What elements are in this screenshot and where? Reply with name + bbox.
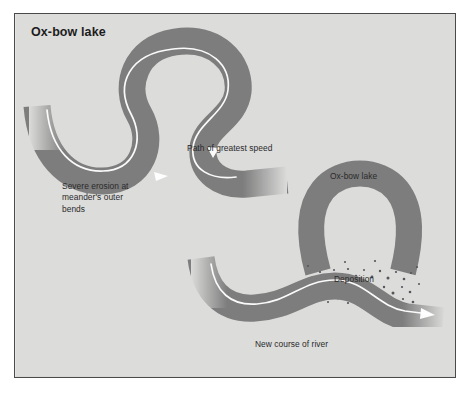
oxbow-lake-horseshoe bbox=[311, 174, 409, 273]
label-new-course-of-river: New course of river bbox=[255, 339, 328, 350]
label-deposition: Deposition bbox=[334, 274, 374, 285]
label-severe-erosion: Severe erosion at meander's outer bends bbox=[62, 181, 129, 215]
diagram-panel: Ox-bow lake Severe erosion at meander's … bbox=[14, 13, 456, 378]
page-title: Ox-bow lake bbox=[31, 25, 106, 39]
label-oxbow-lake: Ox-bow lake bbox=[330, 171, 377, 182]
label-path-of-greatest-speed: Path of greatest speed bbox=[187, 143, 272, 154]
